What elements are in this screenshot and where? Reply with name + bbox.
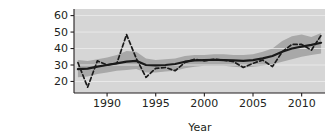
x-axis-tick-label: 2000 — [190, 97, 218, 110]
population-trend-chart: 2030405060 19901995200020052010 Year Est… — [0, 0, 336, 136]
y-axis-tick-label: 30 — [54, 59, 68, 72]
y-axis-tick-label: 20 — [54, 75, 68, 88]
x-axis-tick-label: 1990 — [93, 97, 121, 110]
x-axis-tick-label: 1995 — [142, 97, 170, 110]
y-axis-tick-label: 50 — [54, 26, 68, 39]
chart-figure: 2030405060 19901995200020052010 Year Est… — [0, 0, 336, 136]
x-axis-title: Year — [187, 121, 212, 134]
y-axis-tick-label: 60 — [54, 9, 68, 22]
x-axis-tick-label: 2005 — [239, 97, 267, 110]
x-axis-tick-label: 2010 — [288, 97, 316, 110]
y-axis-tick-label: 40 — [54, 42, 68, 55]
